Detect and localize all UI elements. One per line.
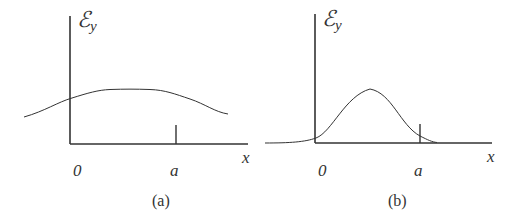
panel-b-y-axis-label: ℰy <box>322 8 342 33</box>
panel-a-y-axis-label: ℰy <box>77 9 97 34</box>
panel-a-caption: (a) <box>152 193 170 209</box>
panel-a-origin-label: 0 <box>73 162 82 179</box>
panel-b <box>265 14 492 143</box>
panel-b-y-label-main: ℰ <box>322 6 335 31</box>
panel-a-y-label-sub: y <box>90 18 97 34</box>
panel-b-curve <box>265 89 437 143</box>
panel-b-origin-label: 0 <box>318 162 327 179</box>
panel-a <box>24 16 248 144</box>
panel-a-curve <box>24 89 228 117</box>
panel-a-y-label-main: ℰ <box>77 7 90 32</box>
panel-b-caption: (b) <box>388 193 407 209</box>
panel-b-tick-label: a <box>414 162 423 179</box>
panel-a-x-axis-label: x <box>242 149 250 166</box>
panel-b-x-axis-label: x <box>487 148 495 165</box>
panel-b-y-label-sub: y <box>335 17 342 33</box>
panel-a-tick-label: a <box>170 162 179 179</box>
